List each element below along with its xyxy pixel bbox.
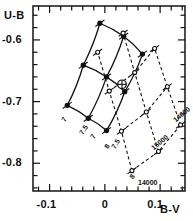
temperature-grid-open-circle bbox=[96, 50, 100, 54]
plot-frame bbox=[33, 6, 185, 191]
gravity-grid-filled-circle bbox=[98, 21, 102, 25]
gravity-grid-filled-circle bbox=[104, 128, 108, 132]
y-axis-label: U-B bbox=[4, 10, 24, 21]
two-color-diagram-figure: U-B B-V -0.100.1-0.8-0.7-0.677.5787.5140… bbox=[0, 0, 193, 221]
y-tick-label-2: -0.6 bbox=[2, 34, 22, 45]
x-tick-label-0: -0.1 bbox=[37, 199, 57, 210]
y-tick-label-0: -0.8 bbox=[2, 157, 22, 168]
gravity-grid-filled-circle bbox=[140, 52, 144, 56]
temperature-grid-open-circle bbox=[119, 129, 123, 133]
gravity-grid-filled-circle bbox=[81, 63, 85, 67]
gravity-grid-cross-line-2 bbox=[100, 23, 143, 54]
x-tick-label-2: 0.1 bbox=[147, 199, 163, 210]
plot-canvas bbox=[0, 0, 193, 221]
temperature-grid-open-circle bbox=[133, 71, 137, 75]
gravity-grid-filled-circle bbox=[86, 116, 90, 120]
gravity-grid-filled-circle bbox=[123, 90, 127, 94]
temperature-grid-cross-line-1 bbox=[121, 87, 167, 131]
gravity-grid-filled-circle bbox=[65, 103, 69, 107]
temperature-grid-open-circle bbox=[107, 89, 111, 93]
temperature-grid-open-circle bbox=[144, 110, 148, 114]
temperature-grid-label-0: 14000 bbox=[138, 179, 157, 186]
x-tick-label-1: 0 bbox=[102, 199, 108, 210]
temperature-grid-open-circle bbox=[165, 85, 169, 89]
temperature-grid-open-circle bbox=[153, 47, 157, 51]
temperature-grid-cross-line-2 bbox=[109, 49, 154, 92]
temperature-grid-open-circle bbox=[121, 31, 125, 35]
temperature-grid-line-14000 bbox=[98, 52, 132, 170]
y-tick-label-1: -0.7 bbox=[2, 96, 22, 107]
earth-symbol bbox=[118, 80, 127, 89]
temperature-grid-open-circle bbox=[179, 123, 183, 127]
temperature-grid-open-circle bbox=[156, 150, 160, 154]
